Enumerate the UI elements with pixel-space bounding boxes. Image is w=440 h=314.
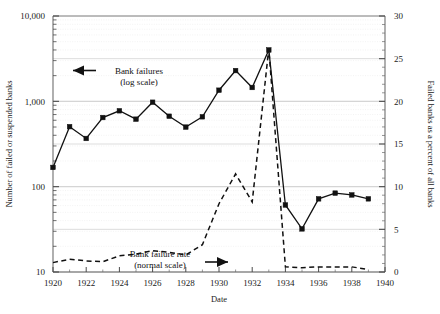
ytick-label-right: 20 — [394, 97, 404, 107]
right-arrow-head-icon — [217, 257, 228, 267]
xtick-label: 1934 — [276, 278, 295, 288]
series-line-bank-failures — [53, 50, 368, 229]
chart-canvas: 101001,00010,000051015202530192019221924… — [0, 0, 440, 314]
xtick-label: 1928 — [177, 278, 196, 288]
left-arrow-head-icon — [73, 66, 84, 76]
ytick-label-left: 10 — [36, 267, 46, 277]
x-axis-title: Date — [211, 294, 227, 304]
y-axis-title-left: Number of failed or suspended banks — [4, 80, 14, 207]
bank-failures-annotation-line1: Bank failures — [115, 66, 164, 76]
xtick-label: 1926 — [144, 278, 163, 288]
xtick-label: 1936 — [310, 278, 329, 288]
data-point-marker — [300, 227, 305, 232]
data-point-marker — [200, 114, 205, 119]
xtick-label: 1932 — [243, 278, 261, 288]
data-point-marker — [150, 100, 155, 105]
data-point-marker — [333, 191, 338, 196]
data-point-marker — [316, 197, 321, 202]
data-point-marker — [350, 193, 355, 198]
xtick-label: 1940 — [376, 278, 395, 288]
data-point-marker — [51, 165, 56, 170]
data-point-marker — [101, 115, 106, 120]
y-axis-title-right: Failed banks as a percent of all banks — [426, 80, 436, 207]
data-point-marker — [250, 85, 255, 90]
ytick-label-right: 15 — [394, 139, 404, 149]
data-point-marker — [84, 136, 89, 141]
data-point-marker — [233, 68, 238, 73]
bank-failure-rate-annotation-line2: (normal scale) — [134, 260, 186, 270]
xtick-label: 1924 — [110, 278, 129, 288]
ytick-label-right: 10 — [394, 182, 404, 192]
ytick-label-left: 10,000 — [20, 11, 45, 21]
xtick-label: 1920 — [44, 278, 63, 288]
chart-annotations: Bank failures(log scale)Bank failure rat… — [73, 66, 228, 271]
bank-failures-chart: 101001,00010,000051015202530192019221924… — [0, 0, 440, 314]
grid-lines — [53, 16, 385, 272]
ytick-label-right: 25 — [394, 54, 404, 64]
ytick-label-left: 100 — [32, 182, 46, 192]
data-point-marker — [217, 88, 222, 93]
bank-failures-annotation-line2: (log scale) — [120, 77, 158, 87]
series-line-bank-failure-rate — [53, 48, 368, 269]
ytick-label-left: 1,000 — [25, 97, 46, 107]
data-point-marker — [283, 203, 288, 208]
data-point-marker — [184, 125, 189, 130]
xtick-label: 1922 — [77, 278, 95, 288]
xtick-label: 1930 — [210, 278, 229, 288]
ytick-label-right: 5 — [394, 225, 399, 235]
data-point-marker — [167, 114, 172, 119]
bank-failure-rate-annotation-line1: Bank failure rate — [130, 249, 190, 259]
data-point-marker — [267, 48, 272, 53]
xtick-label: 1938 — [343, 278, 362, 288]
data-series — [51, 48, 371, 270]
ytick-label-right: 0 — [394, 267, 399, 277]
data-point-marker — [117, 108, 122, 113]
data-point-marker — [67, 124, 72, 129]
ytick-label-right: 30 — [394, 11, 404, 21]
data-point-marker — [366, 197, 371, 202]
data-point-marker — [134, 117, 139, 122]
